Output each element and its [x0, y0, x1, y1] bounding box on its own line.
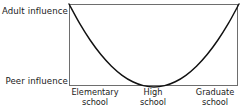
x-tick-label-graduate-line2: school	[170, 98, 243, 108]
x-tick-label-graduate: Graduate school	[170, 88, 243, 107]
influence-curve-chart	[69, 4, 239, 87]
y-axis-bottom-label: Peer influence	[0, 76, 68, 86]
y-axis-top-label: Adult influence	[0, 6, 68, 16]
influence-curve-line	[69, 4, 239, 87]
influence-chart-figure: Adult influence Peer influence Elementar…	[0, 0, 243, 112]
